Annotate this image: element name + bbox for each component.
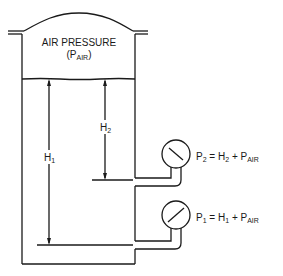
gauge1-pipe (135, 228, 181, 249)
gauge2-equation: P2 = H2 + PAIR (196, 151, 259, 163)
h1-arrow-down-icon (47, 238, 51, 245)
h2-arrow-down-icon (103, 173, 107, 180)
water-surface (22, 79, 135, 80)
h1-arrow-up-icon (47, 79, 51, 86)
gauge1-needle (168, 208, 184, 222)
tank-dome (24, 13, 133, 31)
pressure-tank-diagram: AIR PRESSURE (PAIR) H1 H2 P2 = H2 + PAIR… (0, 0, 283, 276)
h2-arrow-up-icon (103, 79, 107, 86)
tank-label-air-pressure: AIR PRESSURE (42, 37, 117, 48)
gauge1-equation: P1 = H1 + PAIR (196, 212, 259, 224)
gauge2-needle (169, 148, 183, 160)
tank-label-p-air: (PAIR) (66, 49, 91, 61)
gauge2-pipe (135, 167, 181, 186)
